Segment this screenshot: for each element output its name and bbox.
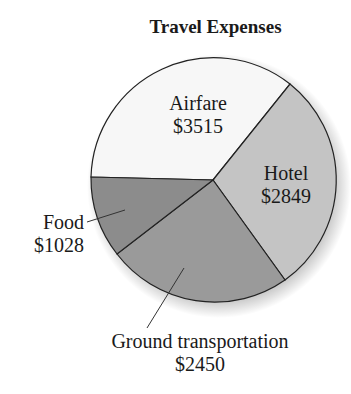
label-food-name: Food bbox=[8, 211, 84, 234]
label-ground-name: Ground transportation bbox=[80, 330, 320, 353]
label-hotel-value: $2849 bbox=[248, 185, 324, 208]
label-ground-value: $2450 bbox=[80, 353, 320, 376]
label-airfare: Airfare $3515 bbox=[148, 92, 248, 138]
label-hotel: Hotel $2849 bbox=[248, 162, 324, 208]
label-airfare-value: $3515 bbox=[148, 115, 248, 138]
label-food: Food $1028 bbox=[8, 211, 84, 257]
label-hotel-name: Hotel bbox=[248, 162, 324, 185]
label-food-value: $1028 bbox=[8, 234, 84, 257]
label-airfare-name: Airfare bbox=[148, 92, 248, 115]
label-ground-transportation: Ground transportation $2450 bbox=[80, 330, 320, 376]
